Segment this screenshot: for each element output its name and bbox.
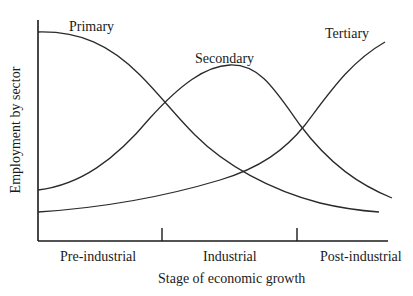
secondary-curve xyxy=(38,65,392,198)
x-category-industrial: Industrial xyxy=(203,250,257,264)
x-category-pre-industrial: Pre-industrial xyxy=(60,250,136,264)
label-primary: Primary xyxy=(69,20,114,34)
x-axis-label: Stage of economic growth xyxy=(158,272,305,286)
y-axis-label: Employment by sector xyxy=(9,67,23,194)
tertiary-curve xyxy=(38,42,385,212)
label-tertiary: Tertiary xyxy=(325,27,369,41)
label-secondary: Secondary xyxy=(195,52,254,66)
x-category-post-industrial: Post-industrial xyxy=(320,250,402,264)
